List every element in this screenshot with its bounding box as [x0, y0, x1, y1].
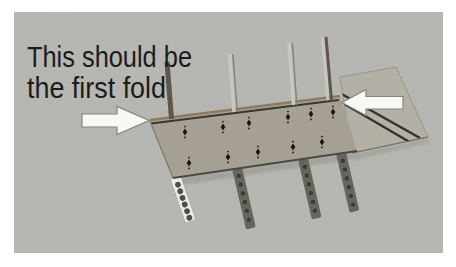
photo: This should be the first fold [0, 0, 456, 267]
annotation-line-1: This should be [27, 41, 192, 73]
photo-white-border: This should be the first fold [0, 0, 456, 267]
annotation-line-2: the first fold [27, 72, 166, 104]
